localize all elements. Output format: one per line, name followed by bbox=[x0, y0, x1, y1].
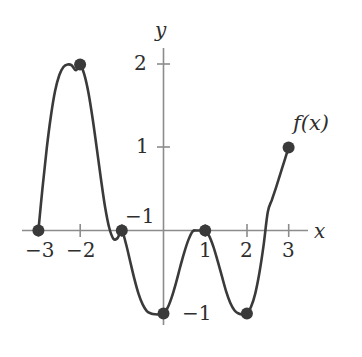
y-axis-stray-label: −1 bbox=[125, 206, 154, 226]
function-label: f(x) bbox=[293, 113, 329, 134]
plot-canvas bbox=[0, 0, 362, 357]
marked-point bbox=[158, 308, 170, 320]
x-axis-label: x bbox=[314, 221, 325, 241]
minimum-value-label: −1 bbox=[182, 303, 211, 323]
x-tick-label-1: 1 bbox=[199, 240, 212, 260]
y-axis-label: y bbox=[155, 20, 166, 40]
x-tick-label-3: 3 bbox=[282, 240, 295, 260]
x-tick-label--2: −2 bbox=[66, 240, 95, 260]
marked-point bbox=[32, 225, 44, 237]
function-graph-figure: y x 2 1 −1 −1 −3 −2 1 2 3 f(x) bbox=[0, 0, 362, 357]
x-tick-label--3: −3 bbox=[25, 240, 54, 260]
axes-group bbox=[22, 48, 308, 325]
x-tick-label-2: 2 bbox=[240, 240, 253, 260]
marked-point bbox=[283, 142, 295, 154]
marked-point bbox=[199, 225, 211, 237]
marked-point bbox=[241, 308, 253, 320]
y-tick-label-1: 1 bbox=[136, 136, 149, 156]
marked-point bbox=[74, 59, 86, 71]
y-tick-label-2: 2 bbox=[134, 53, 147, 73]
